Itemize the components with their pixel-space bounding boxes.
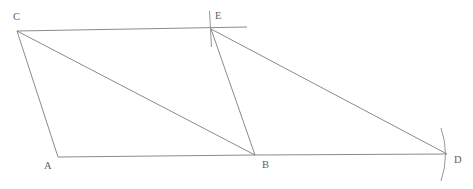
segment-EB: [211, 29, 255, 155]
segment-ED: [211, 29, 447, 154]
segment-CA: [17, 31, 58, 157]
geometry-figure: C E A B D: [0, 0, 473, 189]
figure-canvas: [0, 0, 473, 189]
segment-BD: [255, 154, 447, 155]
arc-mark-at-D: [441, 128, 446, 181]
vertex-label-B: B: [262, 160, 269, 171]
segment-CB: [17, 31, 255, 155]
vertex-label-D: D: [454, 155, 462, 166]
segment-AB: [58, 155, 255, 157]
vertex-label-C: C: [13, 12, 20, 23]
vertex-label-A: A: [44, 161, 52, 172]
segment-CE: [17, 27, 247, 31]
vertex-label-E: E: [215, 11, 221, 22]
